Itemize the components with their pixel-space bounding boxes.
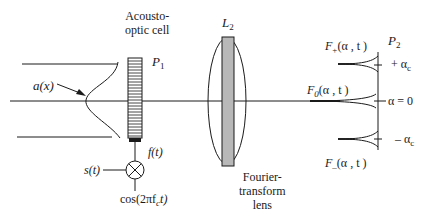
- position-alpha-zero: α = 0: [388, 95, 413, 107]
- plane-p2-label: P2: [388, 34, 400, 50]
- mixer-multiply-icon: [126, 161, 144, 179]
- position-minus-alpha-c: – αc: [395, 133, 414, 148]
- acousto-optic-cell: [128, 58, 142, 142]
- lens-l2-label: L2: [222, 16, 234, 32]
- spike-f-zero-label: F0(α , t ): [307, 84, 348, 99]
- optical-diagram: a(x) Acousto- optic cell P1 f(t) s(t) co…: [0, 0, 429, 216]
- diagram-graphics: [0, 0, 429, 216]
- drive-signal-label: f(t): [148, 146, 163, 158]
- arrow-a-x: [57, 84, 80, 93]
- plane-p1-label: P1: [152, 55, 164, 71]
- acousto-optic-cell-title: Acousto- optic cell: [125, 9, 169, 37]
- arrow-head-icon: [76, 89, 86, 96]
- gaussian-profile-curve: [86, 62, 120, 138]
- spike-f-minus-label: F–(α , t ): [325, 157, 366, 172]
- position-plus-alpha-c: + αc: [391, 58, 411, 73]
- lens-caption: Fourier- transform lens: [239, 170, 286, 212]
- spike-f-plus: [338, 56, 382, 72]
- carrier-label: cos(2πfct): [120, 193, 167, 208]
- spike-f-plus-label: F+(α , t ): [325, 40, 367, 55]
- input-amplitude-label: a(x): [33, 79, 54, 92]
- spike-f-minus: [338, 131, 382, 147]
- signal-s-t-label: s(t): [84, 164, 100, 176]
- transducer: [129, 138, 141, 142]
